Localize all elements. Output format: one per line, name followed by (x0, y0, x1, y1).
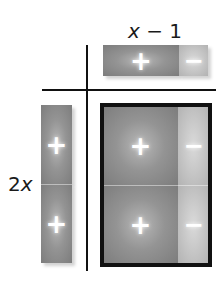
top-factor-label: x − 1 (128, 21, 182, 41)
product-rectangle-border (100, 103, 212, 267)
left-factor-coefficient: 2 (8, 172, 21, 196)
left-x-tile-positive-1: + (41, 105, 72, 184)
minus-icon: − (183, 49, 203, 73)
horizontal-axis-line (42, 89, 216, 91)
top-unit-tile-negative: − (179, 45, 208, 76)
top-factor-variable: x (128, 19, 140, 43)
left-factor-variable: x (21, 172, 33, 196)
vertical-axis-line (86, 45, 88, 271)
top-x-tile-positive: + (103, 45, 179, 76)
plus-icon: + (46, 132, 68, 158)
plus-icon: + (46, 211, 68, 237)
plus-icon: + (130, 48, 152, 74)
top-factor-constant: − 1 (140, 19, 182, 43)
left-x-tile-positive-2: + (41, 184, 72, 263)
left-tile-seam (41, 184, 72, 185)
left-factor-label: 2x (8, 174, 33, 194)
